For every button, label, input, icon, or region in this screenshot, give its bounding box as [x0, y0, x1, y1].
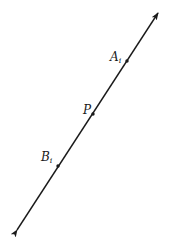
point-p [91, 112, 94, 115]
double-arrow-line [17, 13, 158, 230]
label-a-main: A [110, 50, 119, 64]
label-p-main: P [83, 103, 91, 117]
label-b-sub: i [50, 156, 53, 165]
label-a-i: Ai [110, 51, 121, 65]
label-p: P [83, 104, 91, 116]
line-diagram [0, 0, 169, 247]
point-a-i [125, 59, 128, 62]
label-a-sub: i [119, 56, 122, 65]
label-b-i: Bi [41, 151, 52, 165]
point-b-i [56, 164, 59, 167]
label-b-main: B [41, 150, 50, 164]
